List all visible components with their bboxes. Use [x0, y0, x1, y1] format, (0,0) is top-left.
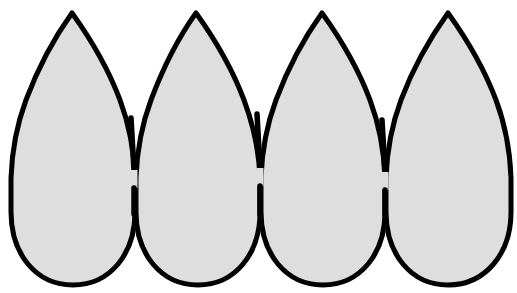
cleft-3-upper-seam [382, 120, 385, 172]
petal-figure-svg [0, 0, 517, 293]
cleft-1-group [131, 118, 134, 214]
cleft-1-upper-seam [131, 118, 134, 170]
cleft-2-group [257, 114, 260, 214]
cleft-3-group [382, 120, 385, 214]
cleft-2-upper-seam [257, 114, 260, 168]
figure-canvas: Four-Petal Outline Figure Four overlappi… [0, 0, 517, 293]
